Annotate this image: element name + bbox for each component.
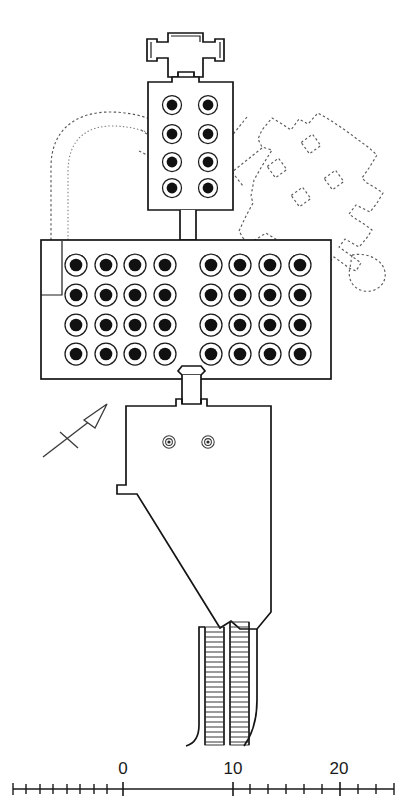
column [65,343,87,365]
site-plan-figure: 0 10 20 [0,0,408,807]
ghost-pier-1 [267,158,287,178]
column [202,436,214,448]
great-hypostyle-hall-group [41,240,331,379]
column [95,254,117,276]
column [229,254,251,276]
stairway-wall-west [186,627,205,746]
column [124,314,146,336]
north-arrow-head [84,404,107,428]
double-stairway-group [186,622,257,746]
upper-columned-chamber-group [148,77,233,240]
ghost-annex-round [349,254,385,291]
column [229,343,251,365]
column [163,179,182,198]
column [95,343,117,365]
column [124,343,146,365]
stair-treads-west [205,632,224,742]
column [289,314,311,336]
ghost-arc-inner [68,126,152,240]
column [229,314,251,336]
upper-chamber-outline [148,77,233,210]
column [289,343,311,365]
column [199,179,218,198]
ghost-pier-3 [291,187,311,207]
column [200,314,222,336]
column [199,125,218,144]
column [154,284,176,306]
column [259,254,281,276]
scale-label-10: 10 [224,759,243,778]
north-arrow [43,404,107,457]
column [95,284,117,306]
ghost-arc-outer [51,112,152,240]
lower-chamber-threshold [178,366,205,375]
scale-label-0: 0 [118,759,127,778]
column [200,254,222,276]
lower-chamber-columns [163,436,214,448]
scale-label-20: 20 [330,759,349,778]
cruciform-pavilion-group [147,33,224,78]
scale-bar: 0 10 20 [13,759,394,796]
column [163,96,182,115]
ghost-line-right-lower [232,148,262,172]
lower-chamber-outline [117,399,271,629]
column [163,125,182,144]
stair-treads-east [230,627,249,742]
column [200,343,222,365]
column [259,314,281,336]
column [289,284,311,306]
column [200,284,222,306]
column [229,284,251,306]
column [124,254,146,276]
column [163,436,175,448]
lower-chamber-neck [182,375,201,404]
column [65,314,87,336]
ghost-pier-2 [301,134,321,154]
site-plan-drawing: 0 10 20 [0,0,408,807]
upper-chamber-doorway [180,210,196,240]
column [289,254,311,276]
column [154,314,176,336]
column [259,343,281,365]
north-arrow-crossbar [60,432,78,448]
column [259,284,281,306]
column [154,254,176,276]
column [163,153,182,172]
column [65,284,87,306]
ghost-pier-4 [324,170,344,190]
column [199,153,218,172]
column [95,314,117,336]
lower-irregular-chamber-group [117,366,271,629]
cruciform-pavilion-outline [147,33,224,77]
column [154,343,176,365]
column [124,284,146,306]
column [199,96,218,115]
superimposed-apse-arcs-group [51,112,152,240]
column [65,254,87,276]
